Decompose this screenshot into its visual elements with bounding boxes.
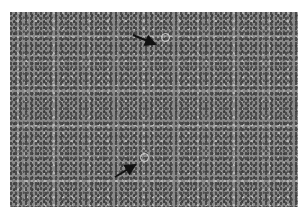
arrow-annotations [0, 0, 306, 214]
arrow-top-icon [133, 35, 155, 44]
arrow-bottom-icon [115, 165, 135, 177]
